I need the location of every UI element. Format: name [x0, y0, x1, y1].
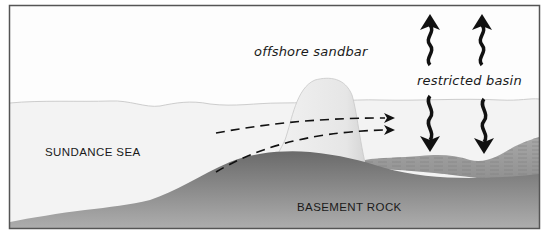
diagram-canvas: [0, 0, 548, 243]
label-basement-rock: BASEMENT ROCK: [297, 201, 402, 213]
label-sundance-sea: SUNDANCE SEA: [45, 146, 141, 158]
label-restricted-basin: restricted basin: [417, 73, 522, 88]
restricted-basin-diagram: offshore sandbar restricted basin SUNDAN…: [0, 0, 548, 243]
label-offshore-sandbar: offshore sandbar: [254, 44, 368, 59]
